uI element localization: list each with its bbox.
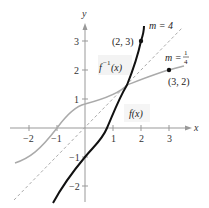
svg-text:4: 4 [184, 58, 188, 66]
y-tick-label: 2 [74, 65, 79, 76]
slope-label-m4: m = 4 [149, 20, 173, 31]
point-label-3-2: (3, 2) [168, 76, 190, 88]
svg-text:(x): (x) [111, 62, 123, 74]
y-axis-label: y [81, 8, 87, 19]
y-tick-label: −1 [69, 152, 80, 163]
x-tick-label: 3 [167, 133, 172, 144]
inverse-function-curve [15, 66, 184, 163]
point-2-3 [139, 39, 143, 43]
x-axis [10, 126, 192, 131]
y-axis [83, 23, 88, 202]
x-axis-label: x [193, 122, 199, 133]
x-tick-label: −2 [23, 133, 34, 144]
identity-line [14, 27, 183, 200]
function-label: f(x) [129, 108, 144, 120]
svg-text:1: 1 [184, 49, 188, 57]
point-3-2 [167, 68, 171, 72]
slope-label-m-quarter: m = 1 4 [165, 49, 189, 66]
x-tick-label: 1 [111, 133, 116, 144]
x-tick-label: 2 [139, 133, 144, 144]
svg-text:−1: −1 [103, 59, 111, 67]
point-label-2-3: (2, 3) [112, 36, 134, 48]
y-tick-label: 3 [74, 36, 79, 47]
y-tick-label: 1 [74, 94, 79, 105]
y-tick-label: −2 [69, 181, 80, 192]
svg-text:m =: m = [165, 52, 181, 63]
graph-of-function-and-inverse: −2 −1 1 2 3 3 2 1 −1 −2 x y (2, 3) (3, 2… [0, 0, 209, 208]
